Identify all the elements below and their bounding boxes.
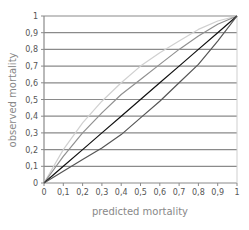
x-tick-label: 0,5 (134, 188, 147, 197)
x-tick-label: 0,4 (115, 188, 128, 197)
x-tick-label: 0,6 (153, 188, 166, 197)
y-tick-label: 0,2 (25, 146, 38, 155)
x-tick-label: 0,9 (211, 188, 224, 197)
y-tick-label: 0,1 (25, 162, 38, 171)
y-tick-label: 0,5 (25, 96, 38, 105)
y-tick-label: 0,6 (25, 79, 38, 88)
y-tick-label: 0,7 (25, 62, 38, 71)
y-tick-label: 0,3 (25, 129, 38, 138)
y-tick-label: 0,8 (25, 45, 38, 54)
x-tick-label: 1 (234, 188, 239, 197)
x-tick-label: 0,7 (173, 188, 186, 197)
x-axis-ticks: 00,10,20,30,40,50,60,70,80,91 (41, 183, 239, 197)
x-axis-title: predicted mortality (92, 206, 188, 217)
y-axis-title: observed mortality (7, 52, 18, 147)
y-tick-label: 0,4 (25, 112, 38, 121)
y-tick-label: 0,9 (25, 29, 38, 38)
y-tick-label: 0 (33, 179, 38, 188)
x-tick-label: 0,8 (192, 188, 205, 197)
x-tick-label: 0,3 (96, 188, 109, 197)
y-tick-label: 1 (33, 12, 38, 21)
x-tick-label: 0 (41, 188, 46, 197)
x-tick-label: 0,2 (76, 188, 89, 197)
x-tick-label: 0,1 (57, 188, 70, 197)
y-axis-ticks: 00,10,20,30,40,50,60,70,80,91 (25, 12, 44, 188)
calibration-chart: 00,10,20,30,40,50,60,70,80,91 00,10,20,3… (0, 0, 249, 230)
